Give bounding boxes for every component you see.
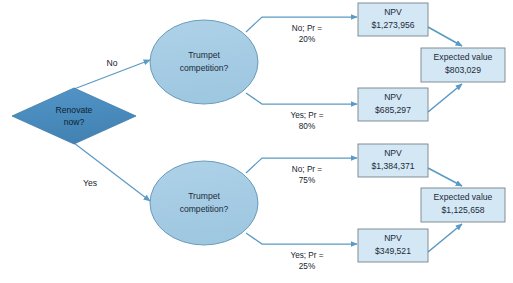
outcome-box-yes-yes[interactable]: NPV $349,521 (358, 229, 428, 262)
edge-label-yes-yes: Yes; Pr = 25% (290, 251, 323, 271)
outcome-box-no-yes-line1: NPV (384, 92, 402, 102)
edge-outcome-to-expected-value-yes-top (428, 168, 462, 186)
branch-label-no: No (107, 58, 118, 68)
edge-label-no-yes-line1: Yes; Pr = (290, 111, 323, 120)
decision-tree-canvas: Renovate now? No Yes Trumpet competition… (0, 0, 513, 283)
outcome-box-no-no[interactable]: NPV $1,273,956 (358, 3, 428, 36)
decision-node-renovate[interactable]: Renovate now? (12, 88, 136, 144)
expected-value-box-no-line1: Expected value (434, 52, 493, 62)
edge-label-no-no: No; Pr = 20% (292, 24, 322, 44)
edge-label-yes-no: No; Pr = 75% (292, 165, 322, 185)
chance-node-yes-label-line2: competition? (180, 204, 229, 214)
edge-label-yes-yes-line1: Yes; Pr = (290, 251, 323, 260)
chance-node-no-label-line1: Trumpet (188, 50, 220, 60)
decision-tree-diagram: Renovate now? No Yes Trumpet competition… (0, 0, 513, 283)
outcome-box-yes-no-line2: $1,384,371 (371, 161, 414, 171)
edge-chance-yes-to-outcome-yes (246, 233, 357, 244)
expected-value-box-yes[interactable]: Expected value $1,125,658 (421, 188, 505, 222)
expected-value-box-no-line2: $803,029 (445, 65, 481, 75)
outcome-box-no-yes[interactable]: NPV $685,297 (358, 88, 428, 121)
decision-node-label-line2: now? (64, 117, 85, 127)
edge-chance-no-to-outcome-yes (246, 93, 357, 104)
decision-node-label-line1: Renovate (56, 105, 93, 115)
outcome-box-yes-yes-line2: $349,521 (375, 246, 411, 256)
edge-outcome-to-expected-value-yes-bottom (428, 224, 462, 252)
outcome-box-yes-yes-line1: NPV (384, 233, 402, 243)
outcome-box-yes-no-line1: NPV (384, 148, 402, 158)
outcome-box-yes-no[interactable]: NPV $1,384,371 (358, 144, 428, 177)
outcome-box-no-yes-line2: $685,297 (375, 105, 411, 115)
outcome-box-no-no-line2: $1,273,956 (371, 20, 414, 30)
edge-decision-to-chance-yes (74, 143, 150, 201)
expected-value-box-yes-line1: Expected value (434, 192, 493, 202)
branch-label-yes: Yes (83, 178, 97, 188)
edge-label-no-yes: Yes; Pr = 80% (290, 111, 323, 131)
chance-node-trumpet-competition-no[interactable]: Trumpet competition? (150, 20, 258, 104)
edge-label-yes-no-line1: No; Pr = (292, 165, 322, 174)
chance-node-yes-label-line1: Trumpet (188, 191, 220, 201)
edge-label-yes-no-line2: 75% (299, 176, 315, 185)
edge-label-no-no-line1: No; Pr = (292, 24, 322, 33)
edge-outcome-to-expected-value-no-top (428, 27, 462, 46)
edge-outcome-to-expected-value-no-bottom (428, 84, 462, 112)
chance-node-no-label-line2: competition? (180, 63, 229, 73)
chance-node-trumpet-competition-yes[interactable]: Trumpet competition? (150, 161, 258, 245)
expected-value-box-yes-line2: $1,125,658 (441, 205, 484, 215)
edge-label-yes-yes-line2: 25% (299, 262, 315, 271)
outcome-box-no-no-line1: NPV (384, 7, 402, 17)
expected-value-box-no[interactable]: Expected value $803,029 (421, 48, 505, 82)
edge-label-no-yes-line2: 80% (299, 122, 315, 131)
edge-label-no-no-line2: 20% (299, 35, 315, 44)
